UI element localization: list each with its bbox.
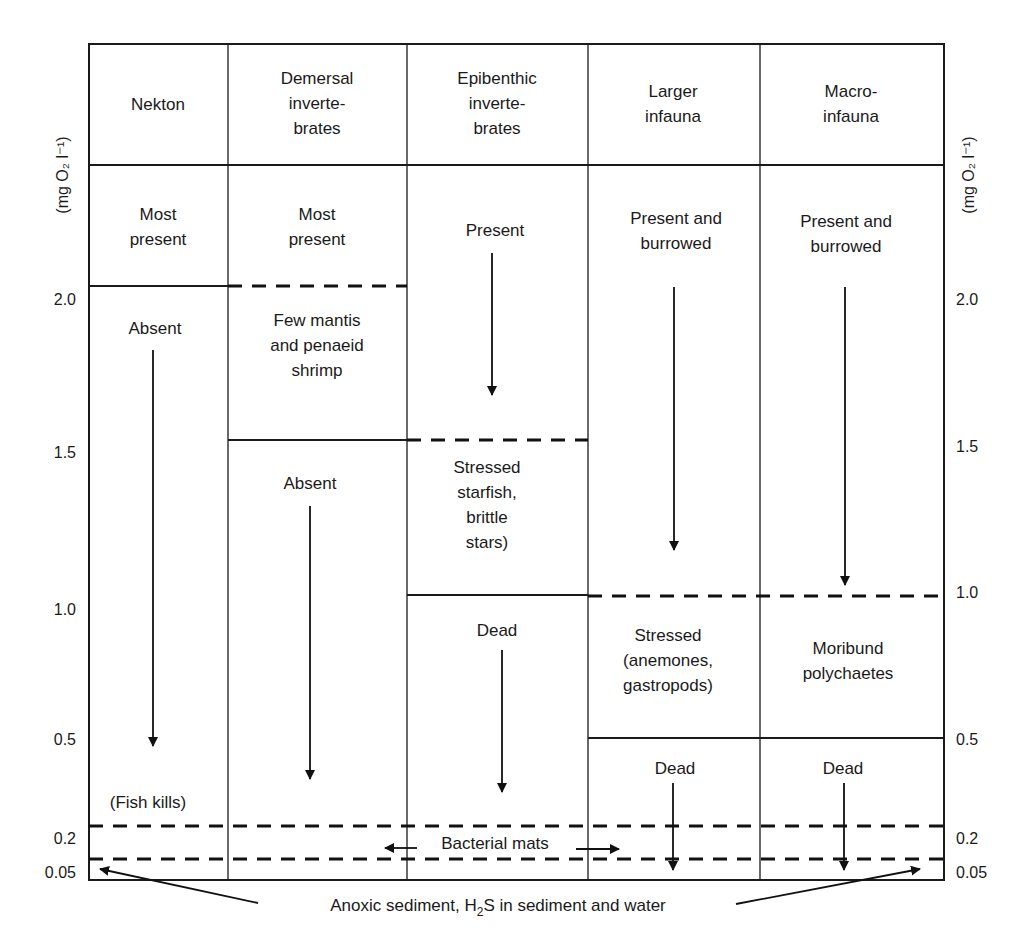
tick-label: 0.05	[45, 864, 76, 881]
tick-label: 1.0	[54, 601, 76, 618]
header-line: brates	[293, 119, 340, 138]
oxygen-fauna-diagram: (mg O₂ l⁻¹) (mg O₂ l⁻¹) 2.0 1.5 1.0 0.5 …	[0, 0, 1023, 950]
epibenthic-stressed: brittle	[466, 508, 508, 527]
diagonal-arrow-icon	[736, 869, 920, 904]
nekton-absent: Absent	[129, 319, 182, 338]
header-nekton: Nekton	[131, 95, 185, 114]
tick-label: 0.5	[54, 731, 76, 748]
epibenthic-stressed: stars)	[466, 533, 509, 552]
larger-infauna-stressed: gastropods)	[623, 676, 713, 695]
anoxic-text-prefix: Anoxic sediment, H	[330, 896, 476, 915]
tick-label: 1.0	[956, 584, 978, 601]
nekton-most-present: present	[130, 230, 187, 249]
header-line: infauna	[823, 107, 879, 126]
right-axis-ticks: 2.0 1.5 1.0 0.5 0.2 0.05	[956, 291, 987, 881]
macro-infauna-present: Present and	[800, 212, 892, 231]
nekton-fish-kills: (Fish kills)	[110, 793, 187, 812]
nekton-most-present: Most	[140, 205, 177, 224]
demersal-absent: Absent	[284, 474, 337, 493]
larger-infauna-stressed: (anemones,	[623, 651, 713, 670]
macro-infauna-present: burrowed	[811, 237, 882, 256]
header-demersal: Demersal inverte- brates	[281, 69, 354, 138]
left-axis-ticks: 2.0 1.5 1.0 0.5 0.2 0.05	[45, 291, 76, 881]
epibenthic-present: Present	[466, 221, 525, 240]
header-line: Larger	[648, 82, 697, 101]
tick-label: 2.0	[54, 291, 76, 308]
header-larger-infauna: Larger infauna	[645, 82, 701, 126]
larger-infauna-present: Present and	[630, 209, 722, 228]
header-macro-infauna: Macro- infauna	[823, 82, 879, 126]
anoxic-text-suffix: S in sediment and water	[483, 896, 666, 915]
epibenthic-stressed: starfish,	[457, 483, 517, 502]
header-epibenthic: Epibenthic inverte- brates	[457, 69, 537, 138]
bacterial-mats-label: Bacterial mats	[441, 834, 549, 853]
axis-units-right: (mg O₂ l⁻¹)	[960, 136, 977, 213]
tick-label: 0.2	[54, 830, 76, 847]
tick-label: 2.0	[956, 291, 978, 308]
epibenthic-stressed: Stressed	[453, 458, 520, 477]
demersal-most-present: Most	[299, 205, 336, 224]
header-line: infauna	[645, 107, 701, 126]
tick-label: 0.5	[956, 731, 978, 748]
axis-units-left: (mg O₂ l⁻¹)	[54, 136, 71, 213]
header-line: brates	[473, 119, 520, 138]
larger-infauna-present: burrowed	[641, 234, 712, 253]
demersal-few-mantis: shrimp	[291, 361, 342, 380]
header-line: Macro-	[825, 82, 878, 101]
tick-label: 0.2	[956, 830, 978, 847]
demersal-most-present: present	[289, 230, 346, 249]
header-line: Epibenthic	[457, 69, 537, 88]
header-line: inverte-	[469, 94, 526, 113]
larger-infauna-stressed: Stressed	[634, 626, 701, 645]
macro-infauna-moribund: Moribund	[813, 639, 884, 658]
tick-label: 1.5	[54, 444, 76, 461]
tick-label: 0.05	[956, 864, 987, 881]
macro-infauna-moribund: polychaetes	[803, 664, 894, 683]
epibenthic-dead: Dead	[477, 621, 518, 640]
demersal-few-mantis: and penaeid	[270, 336, 364, 355]
header-line: inverte-	[289, 94, 346, 113]
tick-label: 1.5	[956, 438, 978, 455]
larger-infauna-dead: Dead	[655, 759, 696, 778]
diagonal-arrow-icon	[100, 869, 258, 903]
macro-infauna-dead: Dead	[823, 759, 864, 778]
header-line: Demersal	[281, 69, 354, 88]
demersal-few-mantis: Few mantis	[274, 311, 361, 330]
anoxic-sediment-label: Anoxic sediment, H2S in sediment and wat…	[330, 896, 666, 919]
